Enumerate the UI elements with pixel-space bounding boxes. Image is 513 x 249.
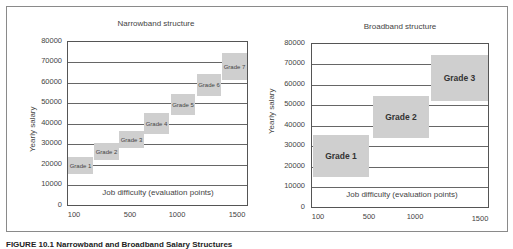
y-tick: 30000 <box>273 140 305 149</box>
y-tick: 0 <box>30 200 62 209</box>
y-tick: 50000 <box>273 99 305 108</box>
chart-title: Broadband structure <box>340 22 460 31</box>
y-tick: 80000 <box>273 38 305 47</box>
grade-box: Grade 5 <box>171 94 195 115</box>
grade-box: Grade 1 <box>68 157 93 174</box>
grade-label: Grade 7 <box>224 64 246 70</box>
grade-label: Grade 3 <box>121 137 143 143</box>
y-tick: 60000 <box>273 79 305 88</box>
figure-caption: FIGURE 10.1 Narrowband and Broadband Sal… <box>6 240 232 249</box>
grade-label: Grade 2 <box>96 149 118 155</box>
y-tick: 20000 <box>30 159 62 168</box>
grade-box: Grade 7 <box>222 53 247 80</box>
grade-box: Grade 3 <box>119 131 144 148</box>
gridline <box>68 62 247 63</box>
x-tick: 100 <box>303 212 333 221</box>
x-tick: 1000 <box>400 212 430 221</box>
grade-box: Grade 2 <box>94 143 119 160</box>
grade-box: Grade 6 <box>197 74 221 96</box>
y-tick: 30000 <box>30 138 62 147</box>
grade-box: Grade 2 <box>373 96 429 138</box>
gridline <box>68 185 247 186</box>
y-tick: 70000 <box>273 58 305 67</box>
grade-label: Grade 3 <box>444 73 476 83</box>
plot-area: Grade 1 Grade 2 Grade 3 Grade 4 Grade 5 … <box>67 41 248 206</box>
grade-label: Grade 1 <box>325 151 357 161</box>
y-tick: 40000 <box>30 118 62 127</box>
y-tick: 60000 <box>30 77 62 86</box>
y-tick: 10000 <box>30 179 62 188</box>
y-tick: 70000 <box>30 56 62 65</box>
chart-title: Narrowband structure <box>96 19 216 28</box>
x-tick: 500 <box>354 212 384 221</box>
y-tick: 50000 <box>30 97 62 106</box>
y-tick: 0 <box>273 202 305 211</box>
y-tick: 20000 <box>273 161 305 170</box>
x-tick: 500 <box>115 210 145 219</box>
y-tick: 80000 <box>30 36 62 45</box>
x-tick: 1000 <box>162 210 192 219</box>
gridline <box>312 187 488 188</box>
plot-area: Grade 1 Grade 2 Grade 3 Job difficulty (… <box>311 43 489 208</box>
grade-box: Grade 4 <box>144 113 169 134</box>
grade-label: Grade 4 <box>146 121 168 127</box>
gridline <box>68 165 247 166</box>
x-tick: 100 <box>59 210 89 219</box>
x-axis-label: Job difficulty (evaluation points) <box>78 188 238 197</box>
y-tick: 40000 <box>273 120 305 129</box>
y-tick: 10000 <box>273 181 305 190</box>
grade-box: Grade 3 <box>431 55 488 101</box>
x-tick: 1500 <box>222 210 252 219</box>
grade-label: Grade 5 <box>172 102 194 108</box>
grade-label: Grade 2 <box>385 112 417 122</box>
grade-label: Grade 6 <box>198 82 220 88</box>
gridline <box>68 103 247 104</box>
grade-label: Grade 1 <box>70 163 92 169</box>
x-tick: 1500 <box>465 214 495 223</box>
x-axis-label: Job difficulty (evaluation points) <box>322 190 482 199</box>
grade-box: Grade 1 <box>313 135 369 177</box>
